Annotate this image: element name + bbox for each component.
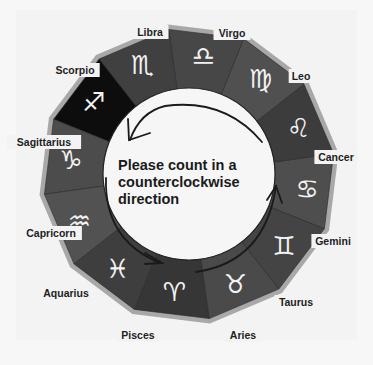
virgo-icon: ♍ [249, 64, 272, 94]
instruction-text: Please count in a counterclockwise direc… [118, 157, 278, 208]
sign-label-gemini: Gemini [311, 234, 354, 248]
sign-label-leo: Leo [289, 69, 314, 83]
zodiac-diagram: ♈♉♊♋♌♍♎♏♐♑♒♓AriesTaurusGeminiCancerLeoVi… [0, 0, 373, 365]
libra-icon: ♎ [192, 41, 215, 71]
sign-label-cancer: Cancer [314, 150, 357, 164]
svg-text:Capricorn: Capricorn [26, 227, 76, 239]
sign-label-libra: Libra [132, 25, 169, 39]
sign-label-scorpio: Scorpio [50, 63, 99, 77]
sign-label-pisces: Pisces [116, 328, 159, 342]
sign-label-aquarius: Aquarius [38, 286, 94, 300]
sign-label-aries: Aries [225, 328, 262, 342]
cancer-icon: ♋ [295, 174, 318, 204]
gemini-icon: ♊ [272, 231, 295, 261]
svg-text:Libra: Libra [137, 26, 163, 38]
sign-label-sagittarius: Sagittarius [7, 135, 81, 149]
leo-icon: ♌ [287, 113, 310, 143]
instruction-line-2: counterclockwise [118, 174, 278, 191]
sign-label-taurus: Taurus [274, 295, 317, 309]
svg-text:Cancer: Cancer [318, 151, 354, 163]
scorpio-icon: ♏ [131, 50, 154, 80]
pisces-icon: ♓ [106, 254, 129, 284]
sign-label-virgo: Virgo [214, 26, 251, 40]
svg-text:Leo: Leo [292, 70, 311, 82]
svg-text:Aquarius: Aquarius [43, 287, 89, 299]
svg-text:Scorpio: Scorpio [55, 64, 94, 76]
svg-text:Gemini: Gemini [315, 235, 351, 247]
svg-text:Virgo: Virgo [219, 27, 246, 39]
instruction-line-1: Please count in a [118, 157, 278, 174]
svg-text:Sagittarius: Sagittarius [17, 136, 71, 148]
taurus-icon: ♉ [224, 269, 247, 299]
aries-icon: ♈ [163, 277, 186, 307]
svg-text:Pisces: Pisces [121, 329, 154, 341]
svg-text:Taurus: Taurus [279, 296, 313, 308]
instruction-line-3: direction [118, 191, 278, 208]
sign-label-capricorn: Capricorn [20, 226, 82, 240]
svg-text:Aries: Aries [230, 329, 256, 341]
sagittarius-icon: ♐ [82, 87, 105, 117]
